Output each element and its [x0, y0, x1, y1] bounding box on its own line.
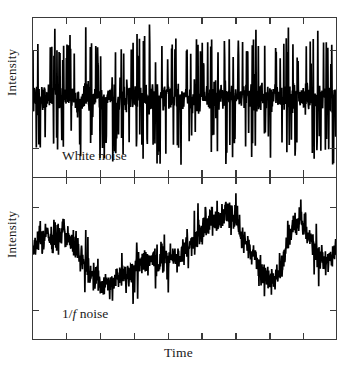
- y-axis-label-pink-noise: Intensity: [4, 238, 20, 258]
- x-tick-mid-up: [100, 170, 101, 177]
- label-text-run: 1/: [62, 306, 73, 321]
- y-axis-label-white-noise: Intensity: [4, 76, 20, 96]
- x-tick-top: [134, 17, 135, 24]
- x-tick-top: [66, 17, 67, 24]
- x-tick-mid-dn: [66, 177, 67, 184]
- x-tick-mid-up: [303, 170, 304, 177]
- x-tick-mid-dn: [201, 177, 202, 184]
- x-tick-bottom: [269, 333, 270, 340]
- x-tick-top: [201, 17, 202, 24]
- label-text-run: noise: [76, 306, 108, 321]
- x-tick-top: [269, 17, 270, 24]
- x-tick-top: [303, 17, 304, 24]
- x-tick-bottom: [168, 333, 169, 340]
- y-tick-left: [32, 207, 39, 208]
- y-tick-left: [32, 310, 39, 311]
- y-tick-right: [330, 50, 337, 51]
- y-tick-right: [330, 310, 337, 311]
- y-tick-left: [32, 50, 39, 51]
- x-tick-mid-dn: [303, 177, 304, 184]
- series-label-pink-noise: 1/f noise: [62, 306, 108, 322]
- y-tick-left: [32, 148, 39, 149]
- figure-noise-comparison: Intensity Intensity White noise 1/f nois…: [0, 0, 357, 370]
- y-tick-right: [330, 148, 337, 149]
- x-tick-top: [168, 17, 169, 24]
- x-tick-bottom: [134, 333, 135, 340]
- x-tick-mid-dn: [235, 177, 236, 184]
- y-tick-right: [330, 207, 337, 208]
- x-tick-mid-up: [66, 170, 67, 177]
- x-tick-mid-up: [134, 170, 135, 177]
- x-tick-mid-up: [269, 170, 270, 177]
- x-tick-mid-up: [168, 170, 169, 177]
- x-axis-label: Time: [0, 345, 357, 361]
- series-label-white-noise: White noise: [62, 148, 127, 164]
- x-tick-bottom: [100, 333, 101, 340]
- x-tick-mid-dn: [269, 177, 270, 184]
- x-tick-mid-up: [201, 170, 202, 177]
- x-tick-top: [100, 17, 101, 24]
- x-tick-mid-up: [235, 170, 236, 177]
- x-tick-bottom: [303, 333, 304, 340]
- x-tick-mid-dn: [168, 177, 169, 184]
- x-tick-bottom: [66, 333, 67, 340]
- x-tick-bottom: [201, 333, 202, 340]
- x-tick-mid-dn: [100, 177, 101, 184]
- x-tick-bottom: [235, 333, 236, 340]
- x-tick-mid-dn: [134, 177, 135, 184]
- x-tick-top: [235, 17, 236, 24]
